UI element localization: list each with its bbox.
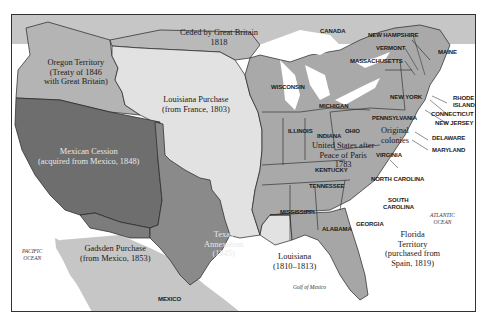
state-island: ISLAND	[453, 102, 475, 108]
state-massachusetts: MASSACHUSETTS	[350, 58, 403, 64]
state-virginia: VIRGINIA	[376, 152, 402, 158]
label-us-1783: United States after Peace of Paris 1783	[312, 141, 374, 170]
state-wisconsin: WISCONSIN	[271, 84, 305, 90]
state-pennsylvania: PENNSYLVANIA	[372, 115, 417, 121]
label-ceded-1818: Ceded by Great Britain 1818	[180, 28, 258, 47]
state-georgia: GEORGIA	[356, 221, 384, 227]
label-texas-annexation: Texas Annexation (1845)	[204, 230, 243, 259]
state-alabama: ALABAMA	[322, 226, 352, 232]
state-maryland: MARYLAND	[432, 147, 465, 153]
label-original-colonies: Original colonies	[381, 126, 409, 145]
label-gadsden-purchase: Gadsden Purchase (from Mexico, 1853)	[80, 244, 150, 263]
label-mexican-cession: Mexican Cession (acquired from Mexico, 1…	[38, 147, 139, 166]
state-tennessee: TENNESSEE	[309, 183, 344, 189]
state-carolina: CAROLINA	[383, 204, 414, 210]
state-delaware: DELAWARE	[432, 135, 465, 141]
state-south: SOUTH	[388, 197, 409, 203]
state-new-york: NEW YORK	[390, 94, 422, 100]
label-oregon-territory: Oregon Territory (Treaty of 1846 with Gr…	[44, 58, 108, 87]
state-ohio: OHIO	[345, 128, 360, 134]
country-mexico: MEXICO	[158, 296, 181, 302]
state-rhode: RHODE	[453, 95, 474, 101]
state-north-carolina: NORTH CAROLINA	[371, 176, 424, 182]
state-new-hampshire: NEW HAMPSHIRE	[368, 32, 418, 38]
state-new-jersey: NEW JERSEY	[435, 120, 473, 126]
label-louisiana-purchase: Louisiana Purchase (from France, 1803)	[162, 95, 230, 114]
label-louisiana-1810: Louisiana (1810–1813)	[273, 252, 316, 271]
label-florida-territory: Florida Territory (purchased from Spain,…	[385, 230, 440, 268]
country-canada: CANADA	[320, 28, 345, 34]
state-connecticut: CONNECTICUT	[431, 111, 474, 117]
state-vermont: VERMONT	[376, 45, 405, 51]
state-illinois: ILLINOIS	[288, 128, 313, 134]
ocean-pacific: PACIFIC OCEAN	[22, 248, 42, 262]
state-indiana: INDIANA	[317, 133, 341, 139]
state-mississippi: MISSISSIPPI	[280, 209, 315, 215]
ocean-atlantic: ATLANTIC OCEAN	[430, 212, 455, 226]
state-maine: MAINE	[438, 49, 457, 55]
state-kentucky: KENTUCKY	[315, 167, 348, 173]
state-michigan: MICHIGAN	[319, 103, 349, 109]
gulf-of-mexico: Gulf of Mexico	[293, 284, 326, 291]
